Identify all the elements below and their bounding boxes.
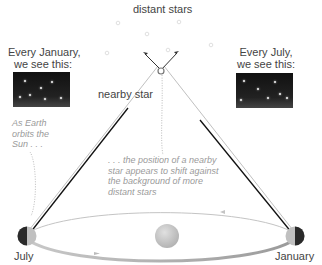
january-sky-image [13, 72, 70, 107]
july-label: July [14, 250, 34, 262]
note-line: . . . the position of a nearby [108, 155, 219, 166]
note-line: orbits the [12, 129, 49, 140]
note-line: star appears to shift against [108, 166, 219, 177]
earth-icon [286, 227, 305, 246]
january-view-caption: Every January, we see this: [8, 46, 78, 70]
earth-orbit-note: As Earth orbits the Sun . . . [12, 118, 49, 150]
july-view-caption: Every July, we see this: [234, 46, 298, 70]
note-line: the background of more [108, 176, 219, 187]
parallax-note: . . . the position of a nearby star appe… [108, 155, 219, 197]
caption-line: Every July, [234, 46, 298, 58]
note-line: As Earth [12, 118, 49, 129]
sun-icon [155, 224, 179, 248]
earth-icon [18, 227, 37, 246]
january-label: January [275, 250, 314, 262]
nearby-star-label: nearby star [98, 88, 153, 100]
nearby-star-icon [158, 68, 164, 74]
distant-star-icon [105, 20, 213, 55]
caption-line: we see this: [234, 58, 298, 70]
note-line: Sun . . . [12, 139, 49, 150]
caption-line: Every January, [8, 46, 78, 58]
distant-stars-label: distant stars [133, 3, 192, 15]
caption-line: we see this: [8, 58, 78, 70]
note-line: distant stars [108, 187, 219, 198]
july-sky-image [236, 73, 293, 108]
